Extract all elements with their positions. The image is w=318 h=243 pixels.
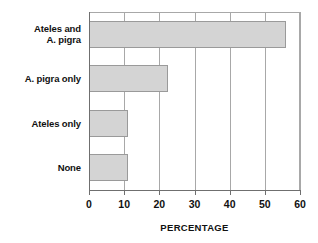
plot-area [89,12,300,190]
tick-label-0: 0 [74,198,104,210]
tick-mark-0 [89,191,90,195]
tick-label-20: 20 [144,198,174,210]
tick-label-10: 10 [109,198,139,210]
tick-mark-30 [195,191,196,195]
tick-label-30: 30 [180,198,210,210]
gridline-60 [300,12,301,190]
tick-mark-10 [124,191,125,195]
tick-label-60: 60 [285,198,315,210]
plot-border [89,12,300,190]
tick-mark-60 [300,191,301,195]
bar-chart: Ateles and A. pigra A. pigra only Ateles… [0,0,318,243]
y-axis-category-labels: Ateles and A. pigra A. pigra only Ateles… [0,12,85,190]
x-axis-title: PERCENTAGE [89,222,300,233]
y-axis-line [89,12,90,190]
y-axis-label-3: None [0,162,81,174]
tick-mark-50 [265,191,266,195]
tick-mark-40 [230,191,231,195]
y-axis-label-2: Ateles only [0,118,81,130]
tick-label-50: 50 [250,198,280,210]
tick-label-40: 40 [215,198,245,210]
y-axis-label-1: A. pigra only [0,73,81,85]
y-axis-label-0: Ateles and A. pigra [0,23,81,46]
tick-mark-20 [159,191,160,195]
